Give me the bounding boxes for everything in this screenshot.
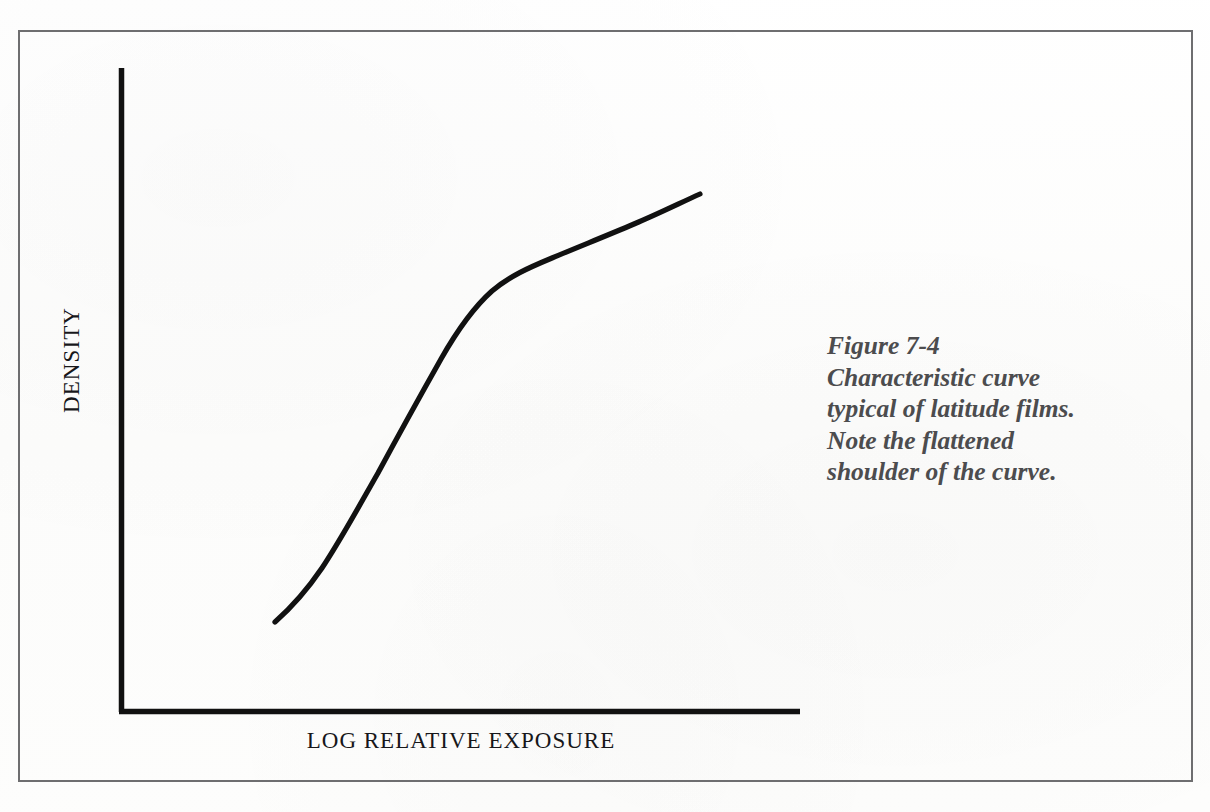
caption-line-2: Characteristic curve (827, 362, 1127, 394)
x-axis-title: LOG RELATIVE EXPOSURE (122, 728, 800, 754)
caption-line-1: Figure 7-4 (827, 330, 1127, 362)
figure-page: DENSITY LOG RELATIVE EXPOSURE Figure 7-4… (0, 0, 1210, 812)
caption-line-5: shoulder of the curve. (827, 456, 1127, 488)
caption-line-3: typical of latitude films. (827, 393, 1127, 425)
caption-line-4: Note the flattened (827, 425, 1127, 457)
y-axis-title: DENSITY (59, 260, 85, 460)
figure-caption: Figure 7-4 Characteristic curve typical … (827, 330, 1127, 488)
